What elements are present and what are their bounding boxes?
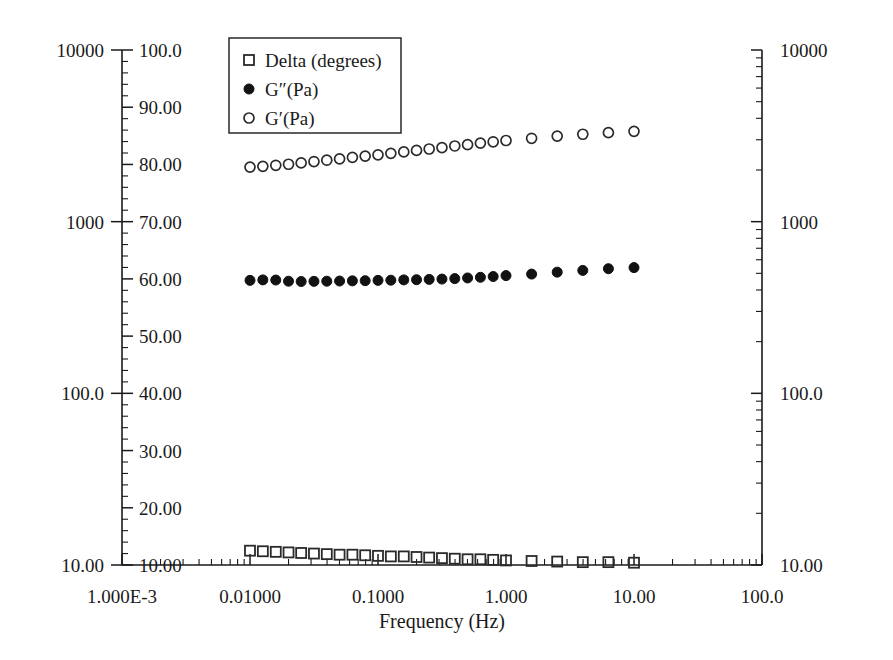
data-point-open-circle <box>629 126 639 136</box>
left-inner-tick-label: 10.00 <box>139 555 182 576</box>
left-inner-tick-label: 60.00 <box>139 269 182 290</box>
data-point-filled-circle <box>245 275 255 285</box>
data-point-filled-circle <box>309 276 319 286</box>
data-point-open-circle <box>399 147 409 157</box>
right-tick-label: 100.0 <box>780 383 823 404</box>
data-point-filled-circle <box>629 263 639 273</box>
right-tick-label: 10000 <box>780 40 828 61</box>
data-point-open-square <box>347 550 357 560</box>
data-point-open-circle <box>578 129 588 139</box>
data-point-open-circle <box>296 158 306 168</box>
data-point-filled-circle <box>373 275 383 285</box>
data-point-open-circle <box>501 136 511 146</box>
data-point-open-square <box>335 550 345 560</box>
data-point-filled-circle <box>347 276 357 286</box>
data-point-open-circle <box>335 154 345 164</box>
data-point-filled-circle <box>386 275 396 285</box>
x-tick-label: 10.00 <box>613 586 656 607</box>
data-point-open-square <box>322 549 332 559</box>
data-point-filled-circle <box>412 275 422 285</box>
data-point-open-square <box>360 550 370 560</box>
x-tick-label: 1.000E-3 <box>87 586 157 607</box>
data-point-open-circle <box>450 141 460 151</box>
data-point-filled-circle <box>296 277 306 287</box>
data-point-open-circle <box>552 131 562 141</box>
data-point-filled-circle <box>271 275 281 285</box>
legend-marker-filled-circle <box>244 84 254 94</box>
left-inner-tick-label: 20.00 <box>139 498 182 519</box>
data-point-filled-circle <box>335 276 345 286</box>
data-point-open-circle <box>245 162 255 172</box>
x-tick-label: 100.0 <box>741 586 784 607</box>
legend-item-0[interactable]: Delta (degrees) <box>244 50 382 72</box>
data-point-filled-circle <box>501 271 511 281</box>
series-g-loss <box>245 263 639 287</box>
data-point-open-square <box>399 551 409 561</box>
x-tick-label: 0.1000 <box>352 586 404 607</box>
data-point-filled-circle <box>284 276 294 286</box>
data-point-open-circle <box>271 160 281 170</box>
data-point-filled-circle <box>475 272 485 282</box>
data-point-open-square <box>258 546 268 556</box>
data-point-filled-circle <box>527 269 537 279</box>
legend-label: G′(Pa) <box>265 108 315 130</box>
data-point-open-circle <box>386 148 396 158</box>
rheology-frequency-sweep-chart: 1.000E-30.010000.10001.00010.00100.0100.… <box>0 0 893 660</box>
legend-label: G″(Pa) <box>265 79 318 101</box>
data-point-filled-circle <box>258 275 268 285</box>
left-inner-tick-label: 80.00 <box>139 154 182 175</box>
legend-label: Delta (degrees) <box>265 50 382 72</box>
left-inner-tick-label: 90.00 <box>139 97 182 118</box>
data-point-open-circle <box>309 157 319 167</box>
data-point-open-square <box>475 554 485 564</box>
data-point-open-square <box>309 549 319 559</box>
left-outer-tick-label: 10000 <box>57 40 105 61</box>
left-inner-tick-label: 50.00 <box>139 326 182 347</box>
data-point-open-circle <box>424 144 434 154</box>
data-point-open-circle <box>284 159 294 169</box>
data-series-layer <box>245 126 639 567</box>
left-inner-tick-label: 40.00 <box>139 383 182 404</box>
data-point-open-circle <box>603 128 613 138</box>
data-point-open-circle <box>322 155 332 165</box>
right-tick-label: 1000 <box>780 212 818 233</box>
data-point-open-circle <box>475 138 485 148</box>
data-point-filled-circle <box>437 274 447 284</box>
data-point-filled-circle <box>488 272 498 282</box>
left-inner-tick-label: 30.00 <box>139 441 182 462</box>
data-point-open-square <box>284 547 294 557</box>
data-point-open-square <box>386 551 396 561</box>
chart-legend: Delta (degrees)G″(Pa)G′(Pa) <box>229 38 401 133</box>
data-point-open-circle <box>463 140 473 150</box>
data-point-open-circle <box>437 143 447 153</box>
left-inner-tick-label: 100.0 <box>139 40 182 61</box>
data-point-filled-circle <box>450 274 460 284</box>
left-outer-tick-label: 1000 <box>66 212 104 233</box>
left-outer-tick-label: 100.0 <box>61 383 104 404</box>
axes-layer: 1.000E-30.010000.10001.00010.00100.0100.… <box>57 40 828 607</box>
data-point-open-square <box>437 553 447 563</box>
data-point-open-circle <box>258 161 268 171</box>
data-point-open-square <box>271 547 281 557</box>
x-axis-title: Frequency (Hz) <box>379 610 505 633</box>
data-point-open-circle <box>412 145 422 155</box>
chart-figure: 1.000E-30.010000.10001.00010.00100.0100.… <box>0 0 893 660</box>
data-point-open-square <box>296 548 306 558</box>
data-point-open-circle <box>373 150 383 160</box>
data-point-filled-circle <box>463 273 473 283</box>
data-point-open-circle <box>347 152 357 162</box>
data-point-filled-circle <box>552 267 562 277</box>
data-point-filled-circle <box>603 264 613 274</box>
data-point-filled-circle <box>578 265 588 275</box>
right-tick-label: 10.00 <box>780 555 823 576</box>
data-point-open-circle <box>488 137 498 147</box>
data-point-open-circle <box>527 133 537 143</box>
data-point-filled-circle <box>322 276 332 286</box>
data-point-filled-circle <box>399 275 409 285</box>
left-inner-tick-label: 70.00 <box>139 212 182 233</box>
data-point-open-circle <box>360 151 370 161</box>
x-tick-label: 1.000 <box>485 586 528 607</box>
left-outer-tick-label: 10.00 <box>61 555 104 576</box>
x-tick-label: 0.01000 <box>219 586 281 607</box>
data-point-open-square <box>424 553 434 563</box>
